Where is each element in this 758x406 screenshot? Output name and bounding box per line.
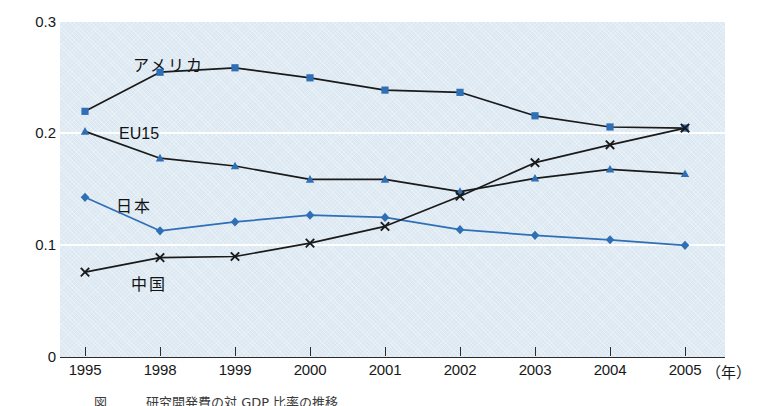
series-line [85, 131, 685, 191]
series-2 [81, 127, 689, 195]
data-point-marker [81, 127, 89, 135]
data-point-marker [381, 87, 388, 94]
data-point-marker [156, 226, 165, 235]
data-point-marker [81, 193, 90, 202]
series-3 [81, 193, 690, 250]
data-point-marker [231, 64, 238, 71]
data-point-marker [231, 217, 240, 226]
data-point-marker [381, 213, 390, 222]
data-point-marker [606, 235, 615, 244]
data-point-marker [681, 241, 690, 250]
data-point-marker [531, 112, 538, 119]
figure-caption: 図 研究開発費の対 GDP 比率の推移 [94, 392, 338, 406]
data-point-marker [606, 123, 613, 130]
series-4 [81, 124, 689, 276]
data-point-marker [306, 74, 313, 81]
data-point-marker [531, 231, 540, 240]
chart-series-layer [0, 0, 758, 406]
data-point-marker [456, 225, 465, 234]
series-line [85, 128, 685, 272]
series-line [85, 68, 685, 128]
data-point-marker [306, 211, 315, 220]
chart-figure: 0.3 0.2 0.1 0 1995 1998 1999 2000 2001 2… [0, 0, 758, 406]
data-point-marker [456, 89, 463, 96]
series-1 [81, 64, 688, 132]
data-point-marker [81, 108, 88, 115]
data-point-marker [156, 69, 163, 76]
